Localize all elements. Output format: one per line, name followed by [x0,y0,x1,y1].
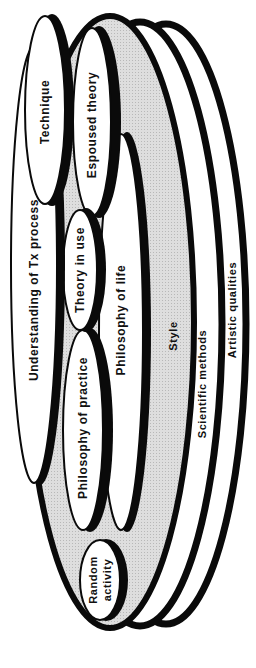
label-theory-in-use: Theory in use [73,227,87,313]
label-technique: Technique [38,80,52,145]
label-artistic-qualities: Artistic qualities [226,262,238,358]
label-random: Random [87,556,99,604]
label-style: Style [167,321,179,350]
nested-ellipse-diagram: Technique Espoused theory Understanding … [0,0,256,668]
label-activity: activity [101,558,113,601]
label-philosophy-of-practice: Philosophy of practice [76,357,90,499]
label-scientific-methods: Scientific methods [196,330,208,439]
label-philosophy-of-life: Philosophy of life [114,265,128,376]
label-understanding-of-tx-process: Understanding of Tx process [27,199,41,381]
label-espoused-theory: Espoused theory [85,72,99,178]
